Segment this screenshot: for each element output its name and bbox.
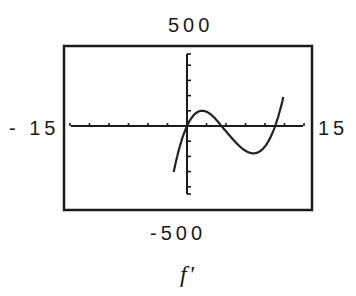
chart-title: f' xyxy=(180,262,196,286)
ymax-label: 500 xyxy=(168,15,213,35)
graph-window xyxy=(0,0,356,296)
f-prime-curve xyxy=(174,97,284,172)
xmax-label: 15 xyxy=(318,118,348,138)
xmin-label: - 15 xyxy=(9,118,59,138)
ymin-label: -500 xyxy=(150,223,206,243)
